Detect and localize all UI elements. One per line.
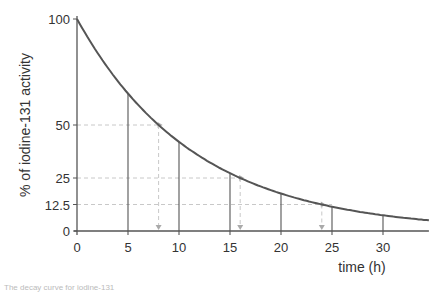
y-tick-label: 25 xyxy=(56,171,70,186)
x-tick-label: 25 xyxy=(325,240,339,255)
y-tick-label: 0 xyxy=(63,224,70,239)
tick-labels: 051015202530012.52550100 xyxy=(45,12,391,255)
y-tick-label: 100 xyxy=(48,12,70,27)
x-tick-label: 20 xyxy=(274,240,288,255)
arrow-down-icon xyxy=(156,225,162,230)
vertical-markers xyxy=(128,94,383,235)
x-tick-label: 5 xyxy=(124,240,131,255)
x-tick-label: 30 xyxy=(376,240,390,255)
x-axis-label: time (h) xyxy=(338,259,385,275)
x-tick-label: 0 xyxy=(73,240,80,255)
y-tick-label: 50 xyxy=(56,118,70,133)
arrow-down-icon xyxy=(319,225,325,230)
arrow-down-icon xyxy=(237,225,243,230)
x-tick-label: 10 xyxy=(172,240,186,255)
y-axis-label: % of iodine-131 activity xyxy=(17,53,33,197)
figure-caption: The decay curve for iodine-131 xyxy=(4,283,114,292)
x-tick-label: 15 xyxy=(223,240,237,255)
decay-curve xyxy=(77,19,429,220)
y-tick-label: 12.5 xyxy=(45,198,70,213)
half-life-guides xyxy=(77,122,332,230)
